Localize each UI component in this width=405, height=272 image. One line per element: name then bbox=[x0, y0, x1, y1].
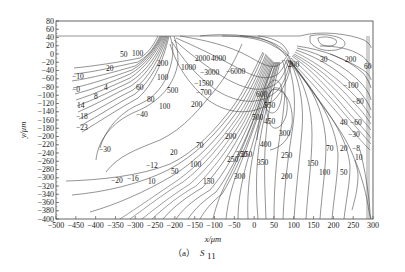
svg-text:14: 14 bbox=[77, 101, 85, 110]
svg-text:4: 4 bbox=[104, 83, 108, 92]
svg-text:−30: −30 bbox=[348, 130, 360, 139]
svg-text:20: 20 bbox=[170, 148, 178, 157]
x-tick-label: −350 bbox=[107, 221, 124, 230]
x-tick-label: −50 bbox=[228, 221, 241, 230]
svg-text:70: 70 bbox=[326, 144, 334, 153]
svg-text:500: 500 bbox=[252, 113, 264, 122]
x-tick-label: 300 bbox=[367, 221, 379, 230]
svg-text:−0: −0 bbox=[72, 85, 80, 94]
x-tick-label: 100 bbox=[288, 221, 300, 230]
svg-text:−700: −700 bbox=[196, 88, 212, 97]
svg-text:50: 50 bbox=[120, 50, 128, 59]
svg-text:20: 20 bbox=[106, 64, 114, 73]
svg-text:−12: −12 bbox=[146, 161, 158, 170]
svg-text:S: S bbox=[200, 248, 205, 258]
svg-text:−80: −80 bbox=[352, 97, 364, 106]
x-tick-label: 250 bbox=[347, 221, 359, 230]
svg-text:500: 500 bbox=[167, 86, 179, 95]
figure-caption: （a） S 11 bbox=[173, 248, 216, 261]
x-tick-label: 50 bbox=[270, 221, 278, 230]
svg-text:4000: 4000 bbox=[211, 54, 226, 63]
svg-text:−3000: −3000 bbox=[200, 68, 219, 77]
svg-text:450: 450 bbox=[264, 117, 276, 126]
svg-text:−20: −20 bbox=[111, 176, 123, 185]
svg-text:10: 10 bbox=[355, 153, 363, 162]
x-tick-label: −500 bbox=[48, 221, 65, 230]
x-tick-label: −250 bbox=[147, 221, 164, 230]
svg-text:300: 300 bbox=[279, 129, 291, 138]
x-tick-label: 150 bbox=[308, 221, 320, 230]
svg-text:550: 550 bbox=[264, 101, 276, 110]
svg-text:200: 200 bbox=[288, 60, 300, 69]
svg-text:50: 50 bbox=[171, 167, 179, 176]
svg-text:200: 200 bbox=[157, 59, 169, 68]
plot-frame bbox=[56, 21, 373, 219]
svg-text:50: 50 bbox=[340, 168, 348, 177]
svg-text:11: 11 bbox=[207, 251, 216, 261]
svg-text:600: 600 bbox=[256, 90, 268, 99]
svg-text:200: 200 bbox=[225, 132, 237, 141]
svg-text:350: 350 bbox=[257, 158, 269, 167]
svg-text:80: 80 bbox=[147, 95, 155, 104]
y-axis-title: y/μm bbox=[18, 122, 28, 140]
svg-text:30: 30 bbox=[320, 55, 328, 64]
svg-text:200: 200 bbox=[191, 100, 203, 109]
svg-text:200: 200 bbox=[281, 172, 293, 181]
svg-text:−1500: −1500 bbox=[194, 79, 213, 88]
x-tick-label: 0 bbox=[252, 221, 256, 230]
x-tick-label: −400 bbox=[87, 221, 104, 230]
svg-text:−10: −10 bbox=[72, 72, 84, 81]
svg-text:−100: −100 bbox=[343, 81, 359, 90]
x-tick-label: 200 bbox=[327, 221, 339, 230]
x-tick-label: −300 bbox=[127, 221, 144, 230]
svg-text:40: 40 bbox=[340, 118, 348, 127]
svg-text:−6000: −6000 bbox=[226, 67, 245, 76]
svg-text:100: 100 bbox=[190, 160, 202, 169]
svg-text:−30: −30 bbox=[99, 145, 111, 154]
x-tick-label: −100 bbox=[206, 221, 223, 230]
svg-text:（a）: （a） bbox=[173, 248, 195, 258]
svg-text:150: 150 bbox=[203, 177, 215, 186]
svg-text:−23: −23 bbox=[76, 123, 88, 132]
svg-text:200: 200 bbox=[345, 55, 357, 64]
svg-text:60: 60 bbox=[364, 62, 372, 71]
svg-text:−18: −18 bbox=[76, 112, 88, 121]
x-tick-label: −150 bbox=[186, 221, 203, 230]
svg-text:100: 100 bbox=[132, 49, 144, 58]
svg-text:20: 20 bbox=[340, 144, 348, 153]
svg-text:8: 8 bbox=[94, 92, 98, 101]
svg-text:250: 250 bbox=[281, 151, 293, 160]
svg-text:100: 100 bbox=[319, 168, 331, 177]
svg-text:400: 400 bbox=[260, 140, 272, 149]
svg-text:60: 60 bbox=[136, 83, 144, 92]
svg-text:300: 300 bbox=[234, 172, 246, 181]
svg-text:250: 250 bbox=[241, 150, 253, 159]
contour-chart: 50 100 20 −10 −0 4 8 14 −18 −23 200 1000… bbox=[0, 0, 405, 272]
svg-text:150: 150 bbox=[307, 159, 319, 168]
svg-text:−8: −8 bbox=[352, 144, 360, 153]
x-tick-label: −450 bbox=[68, 221, 85, 230]
svg-text:100: 100 bbox=[157, 73, 169, 82]
plot-area: 50 100 20 −10 −0 4 8 14 −18 −23 200 1000… bbox=[56, 21, 373, 219]
x-axis-title: x/μm bbox=[204, 234, 222, 244]
svg-text:2000: 2000 bbox=[195, 54, 210, 63]
x-tick-label: −200 bbox=[167, 221, 184, 230]
svg-text:−60: −60 bbox=[350, 118, 362, 127]
svg-text:10: 10 bbox=[148, 177, 156, 186]
svg-text:−40: −40 bbox=[136, 110, 148, 119]
svg-text:−16: −16 bbox=[127, 174, 139, 183]
contour-labels: 50 100 20 −10 −0 4 8 14 −18 −23 200 1000… bbox=[72, 49, 372, 186]
svg-text:1000: 1000 bbox=[181, 63, 196, 72]
svg-text:100: 100 bbox=[159, 102, 171, 111]
svg-text:70: 70 bbox=[196, 141, 204, 150]
